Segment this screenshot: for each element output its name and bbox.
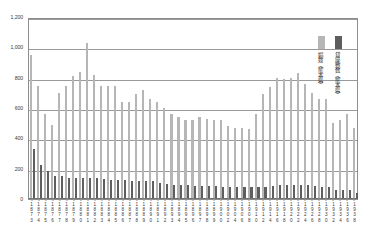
- bar-group: [93, 19, 98, 199]
- bar-light: [184, 120, 186, 199]
- bar-light: [213, 120, 215, 199]
- bar-group: [184, 19, 189, 199]
- bar-group: [234, 19, 239, 199]
- bar-light: [290, 78, 292, 199]
- x-axis-tick-label: 1926: [309, 202, 315, 223]
- bar-group: [241, 19, 246, 199]
- bar-group: [30, 19, 35, 199]
- bar-light: [220, 120, 222, 199]
- x-axis-tick-label: 1904: [232, 202, 238, 223]
- bar-light: [114, 86, 116, 199]
- x-axis-tick-label: 1895: [183, 202, 189, 223]
- x-axis-tick-label: 1932: [330, 202, 336, 223]
- bar-group: [149, 19, 154, 199]
- x-axis-tick-label: 1920: [288, 202, 294, 223]
- bar-group: [114, 19, 119, 199]
- bar-group: [213, 19, 218, 199]
- bar-dark: [152, 181, 154, 199]
- x-axis-tick-mark: [38, 198, 39, 201]
- x-axis-tick-label: 1877: [57, 202, 63, 223]
- x-axis-tick-label: 1936: [344, 202, 350, 223]
- x-axis-tick-label: 1890: [148, 202, 154, 223]
- bar-light: [248, 129, 250, 199]
- bar-light: [107, 86, 109, 199]
- x-axis-tick-mark: [200, 198, 201, 201]
- x-axis-tick-mark: [270, 198, 271, 201]
- bar-dark: [89, 178, 91, 199]
- x-axis-tick-label: 1886: [120, 202, 126, 223]
- bar-light: [234, 128, 236, 199]
- bar-dark: [131, 181, 133, 200]
- bar-light: [339, 120, 341, 199]
- x-axis-tick-label: 1934: [337, 202, 343, 223]
- x-axis-tick-mark: [66, 198, 67, 201]
- bar-group: [262, 19, 267, 199]
- bar-group: [37, 19, 42, 199]
- bar-dark: [68, 178, 70, 199]
- bar-group: [72, 19, 77, 199]
- legend-item-0: 娼妓（熊本県）: [314, 36, 328, 87]
- bar-dark: [145, 181, 147, 199]
- bar-group: [107, 19, 112, 199]
- bar-group: [177, 19, 182, 199]
- y-axis-tick-label: 400: [15, 137, 23, 142]
- bar-dark: [194, 186, 196, 199]
- bar-light: [30, 55, 32, 199]
- x-axis-tick-label: 1888: [134, 202, 140, 223]
- x-axis-tick-label: 1878: [64, 202, 70, 223]
- bar-light: [79, 72, 81, 199]
- bar-group: [156, 19, 161, 199]
- x-axis-tick-label: 1881: [85, 202, 91, 223]
- bar-group: [170, 19, 175, 199]
- chart-container: 02004006008001,0001,200 1873187418751876…: [0, 0, 371, 245]
- bar-dark: [61, 176, 63, 199]
- x-axis-tick-mark: [150, 198, 151, 201]
- bar-light: [58, 93, 60, 199]
- bar-dark: [286, 185, 288, 199]
- bar-dark: [96, 178, 98, 199]
- x-axis-tick-label: 1898: [204, 202, 210, 223]
- x-axis-tick-mark: [354, 198, 355, 201]
- x-axis-tick-label: 1896: [190, 202, 196, 223]
- bar-light: [276, 78, 278, 199]
- x-axis-tick-mark: [87, 198, 88, 201]
- y-axis-tick-label: 200: [15, 167, 23, 172]
- x-axis-tick-label: 1938: [351, 202, 357, 223]
- x-axis-tick-mark: [122, 198, 123, 201]
- x-axis-tick-label: 1908: [246, 202, 252, 223]
- x-axis-tick-label: 1879: [71, 202, 77, 223]
- legend-item-1: 貸座敷数（熊本県）: [331, 36, 345, 97]
- bar-group: [51, 19, 56, 199]
- bar-dark: [75, 178, 77, 199]
- x-axis-tick-label: 1922: [295, 202, 301, 223]
- bar-dark: [54, 176, 56, 199]
- bar-light: [346, 114, 348, 199]
- x-axis-tick-mark: [136, 198, 137, 201]
- bar-light: [128, 102, 130, 199]
- x-axis-tick-mark: [277, 198, 278, 201]
- chart-legend: 娼妓（熊本県） 貸座敷数（熊本県）: [314, 36, 348, 112]
- x-axis-tick-mark: [115, 198, 116, 201]
- bar-group: [163, 19, 168, 199]
- bar-light: [72, 76, 74, 199]
- bar-light: [227, 126, 229, 199]
- bar-light: [206, 119, 208, 199]
- bar-light: [283, 79, 285, 199]
- x-axis-tick-mark: [178, 198, 179, 201]
- bar-light: [170, 114, 172, 199]
- legend-swatch-dark: [335, 36, 342, 49]
- x-axis-tick-label: 1880: [78, 202, 84, 223]
- x-axis-tick-mark: [221, 198, 222, 201]
- bar-dark: [307, 185, 309, 199]
- bar-light: [37, 86, 39, 199]
- x-axis-tick-mark: [284, 198, 285, 201]
- x-axis-tick-mark: [249, 198, 250, 201]
- bar-group: [142, 19, 147, 199]
- bar-group: [58, 19, 63, 199]
- bar-light: [177, 117, 179, 199]
- x-axis-tick-mark: [207, 198, 208, 201]
- x-axis: 1873187418751876187718781879188018811882…: [28, 201, 358, 245]
- x-axis-tick-mark: [80, 198, 81, 201]
- bar-light: [262, 94, 264, 199]
- bar-group: [65, 19, 70, 199]
